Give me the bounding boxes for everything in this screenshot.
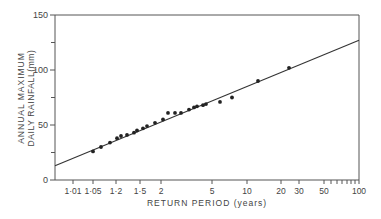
x-tick-label: 1·01 bbox=[64, 186, 81, 196]
data-point bbox=[115, 136, 119, 140]
data-point bbox=[141, 126, 145, 130]
data-point bbox=[204, 102, 208, 106]
x-tick-label: 30 bbox=[294, 186, 304, 196]
data-point bbox=[99, 145, 103, 149]
axes bbox=[55, 15, 359, 180]
x-tick-label: 20 bbox=[276, 186, 286, 196]
data-point bbox=[256, 79, 260, 83]
data-point bbox=[91, 150, 95, 154]
data-point bbox=[195, 104, 199, 108]
y-tick-label: 0 bbox=[43, 175, 48, 185]
data-point bbox=[179, 111, 183, 115]
x-axis-ticks: 1·011·051·21·52510203050100 bbox=[64, 180, 366, 196]
data-point bbox=[125, 133, 129, 137]
data-point bbox=[187, 108, 191, 112]
data-point bbox=[135, 129, 139, 133]
data-point bbox=[153, 121, 157, 125]
data-point bbox=[145, 124, 149, 128]
data-point bbox=[119, 134, 123, 138]
rainfall-return-period-chart: 050100150 1·011·051·21·52510203050100 RE… bbox=[0, 0, 381, 219]
data-point bbox=[166, 111, 170, 115]
x-tick-label: 10 bbox=[242, 186, 252, 196]
x-tick-label: 1·2 bbox=[110, 186, 123, 196]
x-tick-label: 2 bbox=[159, 186, 164, 196]
x-tick-label: 5 bbox=[210, 186, 215, 196]
x-tick-label: 1·05 bbox=[84, 186, 101, 196]
data-point bbox=[161, 118, 165, 122]
x-axis-label: RETURN PERIOD (years) bbox=[147, 198, 267, 208]
data-point bbox=[108, 141, 112, 145]
y-axis-label: ANNUAL MAXIMUM DAILY RAINFALL(mm) bbox=[16, 50, 36, 147]
y-axis-ticks: 050100150 bbox=[33, 10, 55, 185]
y-tick-label: 50 bbox=[38, 120, 48, 130]
x-tick-label: 100 bbox=[352, 186, 366, 196]
y-tick-label: 150 bbox=[33, 10, 48, 20]
data-point bbox=[230, 96, 234, 100]
data-point bbox=[173, 111, 177, 115]
x-tick-label: 50 bbox=[319, 186, 329, 196]
data-point bbox=[218, 100, 222, 104]
y-axis-label-line-2: DAILY RAINFALL(mm) bbox=[26, 50, 36, 147]
x-tick-label: 1·5 bbox=[134, 186, 147, 196]
y-axis-label-line-1: ANNUAL MAXIMUM bbox=[16, 52, 26, 144]
data-point bbox=[287, 66, 291, 70]
